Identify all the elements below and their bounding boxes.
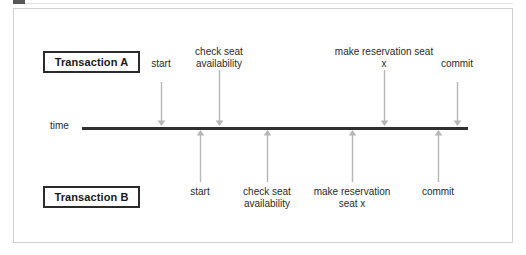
event-label-transaction-b-1: check seat availability [243, 186, 291, 210]
transaction-a-label: Transaction A [55, 56, 129, 68]
diagram-canvas: Transaction A Transaction B time startch… [0, 0, 526, 255]
event-label-transaction-a-2: make reservation seat x [335, 46, 433, 70]
event-arrow-transaction-b-2 [348, 130, 357, 182]
transaction-b-label: Transaction B [54, 191, 128, 203]
event-arrow-transaction-b-3 [434, 130, 443, 182]
transaction-a-box: Transaction A [43, 51, 140, 73]
event-arrow-transaction-a-3 [453, 82, 462, 126]
event-label-transaction-b-2: make reservation seat x [314, 186, 391, 210]
event-label-transaction-a-3: commit [441, 58, 473, 70]
event-arrow-transaction-a-0 [157, 82, 166, 126]
event-label-transaction-b-3: commit [422, 186, 454, 198]
caption-divider [25, 3, 513, 4]
event-arrow-transaction-b-0 [196, 130, 205, 182]
event-label-transaction-a-1: check seat availability [195, 46, 243, 70]
event-label-transaction-b-0: start [190, 186, 209, 198]
event-arrow-transaction-a-2 [380, 70, 389, 126]
cropped-caption-remnant [13, 0, 25, 4]
time-axis-label: time [50, 120, 69, 131]
event-arrow-transaction-a-1 [215, 70, 224, 126]
event-arrow-transaction-b-1 [263, 130, 272, 182]
transaction-b-box: Transaction B [43, 186, 140, 208]
event-label-transaction-a-0: start [151, 58, 170, 70]
time-axis-line [82, 127, 468, 130]
